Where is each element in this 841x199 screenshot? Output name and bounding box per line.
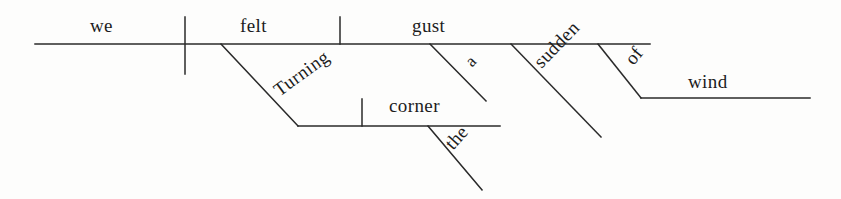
diagram-word-object-of-prep: wind: [688, 72, 728, 91]
sentence-diagram: wefeltgustasuddenofwindTurningcornerthe: [0, 0, 841, 199]
diagram-word-verb: felt: [240, 16, 267, 35]
diagram-word-direct-object: gust: [412, 16, 445, 35]
diagram-word-participle-object: corner: [389, 96, 440, 115]
modifier-line-a: [430, 44, 486, 101]
diagram-word-subject: we: [90, 16, 113, 35]
